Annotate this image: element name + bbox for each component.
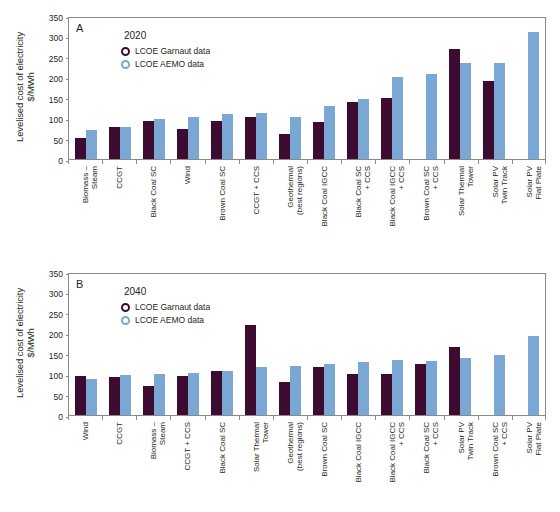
bar-garnaut xyxy=(177,376,188,415)
bar-group xyxy=(307,18,341,159)
bar-group xyxy=(511,18,545,159)
bar-garnaut xyxy=(109,377,120,415)
bar-group xyxy=(273,274,307,415)
y-tick-label: 150 xyxy=(17,352,69,361)
bar-aemo xyxy=(86,130,97,159)
bar-group xyxy=(443,274,477,415)
x-tick-label: CCGT + CCS xyxy=(183,422,192,510)
x-tick-label: Brown Coal SC xyxy=(218,166,227,254)
bar-garnaut xyxy=(75,138,86,159)
y-tick-label: 300 xyxy=(17,34,69,43)
bar-group xyxy=(375,274,409,415)
bar-aemo xyxy=(222,371,233,415)
x-tick-label: CCGT + CCS xyxy=(252,166,261,254)
x-tick-label: Solar PV Flat Plate xyxy=(525,166,543,254)
bar-group xyxy=(69,274,103,415)
bar-group xyxy=(137,274,171,415)
x-tick-label: CCGT xyxy=(115,166,124,254)
bar-aemo xyxy=(426,74,437,159)
bar-aemo xyxy=(324,106,335,159)
bar-aemo xyxy=(120,375,131,415)
bar-aemo xyxy=(222,114,233,159)
bar-group xyxy=(137,18,171,159)
bar-aemo xyxy=(154,374,165,415)
bar-group xyxy=(341,274,375,415)
bar-group xyxy=(375,18,409,159)
y-tick-label: 350 xyxy=(17,270,69,279)
x-tick-label: Solar Thermal Tower xyxy=(252,422,270,510)
y-tick-label: 100 xyxy=(17,372,69,381)
bar-aemo xyxy=(358,99,369,159)
y-tick-label: 150 xyxy=(17,96,69,105)
x-tick-label: Solar PV Twin Track xyxy=(457,422,475,510)
bar-aemo xyxy=(256,113,267,159)
bar-aemo xyxy=(86,379,97,415)
bar-group xyxy=(477,274,511,415)
bar-group xyxy=(69,18,103,159)
bar-garnaut xyxy=(313,122,324,159)
bar-garnaut xyxy=(109,127,120,159)
x-tick-label: Black Coal IGCC + CCS xyxy=(388,166,406,254)
bar-aemo xyxy=(188,117,199,159)
x-tick-label: Solar PV Flat Plate xyxy=(525,422,543,510)
x-tick-label: Black Coal SC xyxy=(218,422,227,510)
x-tick-label: Black Coal IGCC + CCS xyxy=(388,422,406,510)
x-tick-label: Wind xyxy=(81,422,90,510)
bar-garnaut xyxy=(483,81,494,159)
bar-aemo xyxy=(392,77,403,159)
bar-garnaut xyxy=(381,98,392,159)
panel-a: Levelised cost of electricity $/MWh A 20… xyxy=(0,0,560,256)
x-tick-label: Black Coal SC xyxy=(149,166,158,254)
x-tick-label: Black Coal IGCC xyxy=(354,422,363,510)
bar-garnaut xyxy=(245,117,256,159)
y-tick-label: 250 xyxy=(17,55,69,64)
bar-garnaut xyxy=(313,367,324,415)
x-tick-label: Black Coal IGCC xyxy=(320,166,329,254)
bar-group xyxy=(103,18,137,159)
y-tick-label: 250 xyxy=(17,311,69,320)
x-tick-label: Geothermal (best regions) xyxy=(286,166,304,254)
plot-area-b: B 2040 LCOE Garnaut data LCOE AEMO data … xyxy=(68,273,546,416)
y-tick-label: 0 xyxy=(17,157,69,166)
y-tick-label: 350 xyxy=(17,14,69,23)
bar-group xyxy=(273,18,307,159)
bar-group-container-b xyxy=(69,274,545,415)
bar-garnaut xyxy=(449,347,460,415)
bar-garnaut xyxy=(177,129,188,159)
y-tick-label: 100 xyxy=(17,116,69,125)
bar-garnaut xyxy=(143,386,154,415)
x-tick-label: Brown Coal SC + CCS xyxy=(422,166,440,254)
y-tick-label: 300 xyxy=(17,290,69,299)
bar-aemo xyxy=(120,127,131,159)
bar-garnaut xyxy=(211,121,222,159)
y-tick-label: 200 xyxy=(17,75,69,84)
bar-aemo xyxy=(358,362,369,415)
bar-garnaut xyxy=(211,371,222,415)
x-tick-label: Brown Coal SC + CCS xyxy=(491,422,509,510)
x-tick-label: Solar PV Twin Track xyxy=(491,166,509,254)
bar-aemo xyxy=(460,63,471,159)
bar-aemo xyxy=(290,366,301,415)
bar-garnaut xyxy=(347,102,358,159)
panel-b: Levelised cost of electricity $/MWh B 20… xyxy=(0,256,560,512)
bar-aemo xyxy=(528,336,539,415)
y-tick-label: 50 xyxy=(17,137,69,146)
bar-aemo xyxy=(392,360,403,415)
bar-group xyxy=(409,18,443,159)
bar-aemo xyxy=(154,119,165,159)
bar-garnaut xyxy=(381,374,392,415)
x-tick-label: Brown Coal SC xyxy=(320,422,329,510)
x-tick-label: Black Coal SC + CCS xyxy=(354,166,372,254)
bar-group-container-a xyxy=(69,18,545,159)
x-tick-label: Biomass – Steam xyxy=(149,422,167,510)
bar-group xyxy=(239,18,273,159)
bar-group xyxy=(239,274,273,415)
y-tick-label: 0 xyxy=(17,413,69,422)
x-tick-label: CCGT xyxy=(115,422,124,510)
bar-group xyxy=(341,18,375,159)
bar-aemo xyxy=(256,367,267,415)
bar-group xyxy=(171,274,205,415)
bar-garnaut xyxy=(143,121,154,159)
y-tick-label: 50 xyxy=(17,393,69,402)
x-tick-label: Biomass – Steam xyxy=(81,166,99,254)
